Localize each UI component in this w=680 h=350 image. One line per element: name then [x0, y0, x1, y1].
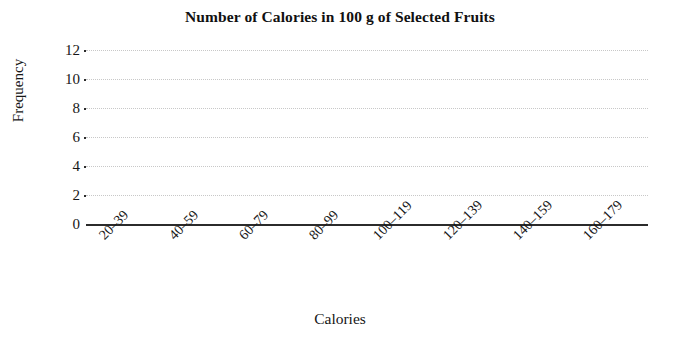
x-axis-line	[86, 224, 648, 226]
y-axis-title: Frequency	[10, 31, 27, 151]
x-axis-title: Calories	[0, 310, 680, 328]
y-tick-label-4: 4	[54, 159, 80, 174]
y-tick-label-10: 10	[54, 72, 80, 87]
chart-title: Number of Calories in 100 g of Selected …	[0, 8, 680, 26]
y-tick-label-0: 0	[54, 217, 80, 232]
y-tick-label-6: 6	[54, 130, 80, 145]
bars-layer	[86, 50, 648, 224]
plot-area	[86, 50, 648, 224]
y-tick-label-2: 2	[54, 188, 80, 203]
y-tick-label-8: 8	[54, 101, 80, 116]
y-axis-tick-labels: 12 10 8 6 4 2 0	[52, 0, 80, 350]
chart-figure: Number of Calories in 100 g of Selected …	[0, 0, 680, 350]
y-tick-label-12: 12	[54, 43, 80, 58]
